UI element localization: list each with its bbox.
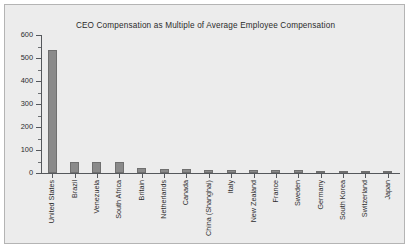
bar (361, 171, 370, 173)
bar (137, 168, 146, 173)
x-axis-tick (186, 174, 187, 178)
bar (92, 162, 101, 173)
x-axis-tick-label: Brazil (71, 180, 78, 198)
x-axis-tick-label: France (272, 180, 279, 202)
x-axis-line (41, 173, 400, 174)
x-axis-tick (343, 174, 344, 178)
y-axis-tick-label: 400 (5, 77, 33, 84)
bar (48, 50, 57, 173)
bar (316, 171, 325, 173)
y-axis-tick (36, 173, 41, 174)
plot-area (41, 35, 399, 173)
x-axis-tick-label: Switzerland (362, 180, 369, 217)
x-axis-tick-label: Venezuela (93, 180, 100, 214)
x-axis-tick-label: United States (49, 180, 56, 223)
chart-screenshot: CEO Compensation as Multiple of Average … (0, 0, 410, 249)
x-axis-tick (164, 174, 165, 178)
x-axis-tick (75, 174, 76, 178)
x-axis-tick (388, 174, 389, 178)
x-axis-tick (254, 174, 255, 178)
x-axis-tick-label: Netherlands (160, 180, 167, 219)
x-axis-tick (119, 174, 120, 178)
x-axis-tick-label: South Africa (116, 180, 123, 219)
x-axis-tick-label: Japan (384, 180, 391, 200)
x-axis-tick (276, 174, 277, 178)
x-axis-tick (209, 174, 210, 178)
x-axis-tick-label: Canada (183, 180, 190, 205)
x-axis-tick (321, 174, 322, 178)
bar (204, 170, 213, 173)
y-axis-tick-label: 0 (5, 169, 33, 176)
bar (271, 170, 280, 173)
x-axis-tick-label: Sweden (295, 180, 302, 206)
bar (70, 162, 79, 173)
y-axis-tick-label: 300 (5, 100, 33, 107)
x-axis-tick-label: Italy (228, 180, 235, 193)
x-axis-tick (365, 174, 366, 178)
x-axis-tick-label: Germany (317, 180, 324, 210)
x-axis-tick-label: Britain (138, 180, 145, 200)
chart-figure: CEO Compensation as Multiple of Average … (4, 4, 405, 244)
bar (182, 169, 191, 173)
bar (227, 170, 236, 173)
x-axis-tick (298, 174, 299, 178)
bar (339, 171, 348, 173)
x-axis-tick (52, 174, 53, 178)
y-axis-tick-label: 100 (5, 146, 33, 153)
x-axis-tick-label: New Zealand (250, 180, 257, 222)
bar (383, 171, 392, 173)
bar (115, 162, 124, 173)
x-axis-tick (142, 174, 143, 178)
y-axis-tick-label: 200 (5, 123, 33, 130)
chart-title: CEO Compensation as Multiple of Average … (5, 21, 406, 30)
bar (160, 169, 169, 173)
y-axis-tick-label: 600 (5, 31, 33, 38)
x-axis-tick-label: China (Shanghai) (205, 180, 212, 236)
x-axis-tick-label: South Korea (339, 180, 346, 220)
bar (249, 170, 258, 173)
y-axis-tick-label: 500 (5, 54, 33, 61)
x-axis-tick (97, 174, 98, 178)
x-axis-tick (231, 174, 232, 178)
bar (294, 170, 303, 173)
